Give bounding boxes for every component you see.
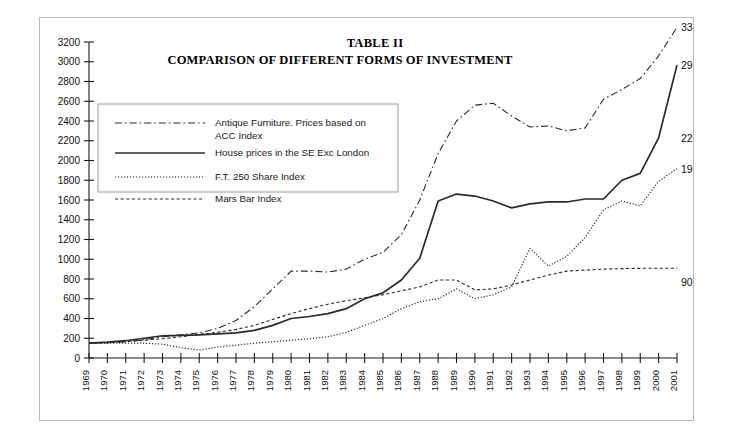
legend-item-label: Mars Bar Index bbox=[215, 193, 282, 204]
chart-title-line-1: TABLE II bbox=[347, 36, 404, 50]
x-tick-label: 1975 bbox=[190, 370, 201, 391]
y-tick-label: 400 bbox=[63, 313, 80, 324]
x-tick-label: 1978 bbox=[245, 370, 256, 391]
x-tick-label: 1986 bbox=[392, 370, 403, 391]
y-tick-label: 2000 bbox=[58, 155, 81, 166]
y-tick-label: 1800 bbox=[58, 175, 81, 186]
legend-item-label: Antique Furniture. Prices based on bbox=[215, 117, 366, 128]
y-tick-label: 1400 bbox=[58, 214, 81, 225]
end-value-label: 3349 bbox=[681, 21, 693, 33]
x-tick-label: 1974 bbox=[172, 370, 183, 391]
x-tick-label: 2000 bbox=[650, 370, 661, 391]
end-value-label: 1916 bbox=[681, 163, 693, 175]
y-tick-label: 3000 bbox=[58, 56, 81, 67]
x-tick-label: 1977 bbox=[227, 370, 238, 391]
x-tick-label: 1989 bbox=[448, 370, 459, 391]
x-tick-label: 1983 bbox=[337, 370, 348, 391]
legend-item-label: F.T. 250 Share Index bbox=[215, 171, 305, 182]
x-tick-label: 1996 bbox=[576, 370, 587, 391]
x-tick-label: 1973 bbox=[154, 370, 165, 391]
investment-comparison-line-chart: TABLE II COMPARISON OF DIFFERENT FORMS O… bbox=[40, 18, 693, 420]
x-tick-label: 1971 bbox=[117, 370, 128, 391]
page-root: TABLE II COMPARISON OF DIFFERENT FORMS O… bbox=[0, 0, 732, 435]
x-tick-label: 1984 bbox=[356, 370, 367, 391]
x-tick-label: 1976 bbox=[209, 370, 220, 391]
x-tick-label: 1995 bbox=[558, 370, 569, 391]
series-line-3 bbox=[89, 268, 677, 343]
legend-item-label: House prices in the SE Exc London bbox=[215, 147, 369, 158]
x-tick-label: 1992 bbox=[503, 370, 514, 391]
series-line-2 bbox=[89, 169, 677, 350]
y-tick-label: 2400 bbox=[58, 116, 81, 127]
y-tick-label: 3200 bbox=[58, 37, 81, 48]
x-tick-label: 1994 bbox=[539, 370, 550, 391]
x-tick-label: 1982 bbox=[319, 370, 330, 391]
x-axis: 1969197019711972197319741975197619771978… bbox=[80, 353, 679, 391]
x-tick-label: 1998 bbox=[613, 370, 624, 391]
end-value-label: 2966 bbox=[681, 59, 693, 71]
y-tick-label: 2600 bbox=[58, 96, 81, 107]
figure-frame: TABLE II COMPARISON OF DIFFERENT FORMS O… bbox=[39, 17, 694, 421]
x-tick-label: 1999 bbox=[631, 370, 642, 391]
y-tick-label: 1000 bbox=[58, 254, 81, 265]
y-tick-label: 2800 bbox=[58, 76, 81, 87]
end-value-label: 2230 bbox=[681, 132, 693, 144]
legend-item-label-cont: ACC Index bbox=[215, 130, 262, 141]
y-tick-label: 600 bbox=[63, 293, 80, 304]
x-tick-label: 1979 bbox=[264, 370, 275, 391]
y-tick-label: 0 bbox=[74, 353, 80, 364]
x-tick-label: 1985 bbox=[374, 370, 385, 391]
y-tick-label: 200 bbox=[63, 333, 80, 344]
x-tick-label: 1997 bbox=[595, 370, 606, 391]
x-tick-label: 1990 bbox=[466, 370, 477, 391]
x-tick-label: 1970 bbox=[98, 370, 109, 391]
y-tick-label: 1600 bbox=[58, 195, 81, 206]
x-tick-label: 2001 bbox=[668, 370, 679, 391]
x-tick-label: 1981 bbox=[301, 370, 312, 391]
end-value-labels: 3349296622301916909 bbox=[681, 21, 693, 288]
x-tick-label: 1988 bbox=[429, 370, 440, 391]
x-tick-label: 1993 bbox=[521, 370, 532, 391]
chart-title-line-2: COMPARISON OF DIFFERENT FORMS OF INVESTM… bbox=[167, 53, 513, 67]
y-tick-label: 800 bbox=[63, 274, 80, 285]
x-tick-label: 1980 bbox=[282, 370, 293, 391]
x-tick-label: 1987 bbox=[411, 370, 422, 391]
x-tick-label: 1991 bbox=[484, 370, 495, 391]
y-tick-label: 2200 bbox=[58, 135, 81, 146]
x-tick-label: 1972 bbox=[135, 370, 146, 391]
end-value-label: 909 bbox=[681, 276, 693, 288]
y-tick-label: 1200 bbox=[58, 234, 81, 245]
chart-legend: Antique Furniture. Prices based onACC In… bbox=[98, 104, 398, 204]
x-tick-label: 1969 bbox=[80, 370, 91, 391]
